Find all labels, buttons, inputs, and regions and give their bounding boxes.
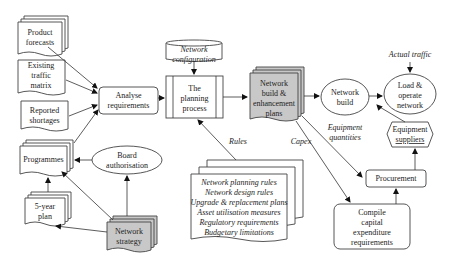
equipment-suppliers-node: Equipment suppliers: [387, 122, 433, 147]
network-planning-diagram: Product forecasts Existing traffic matri…: [0, 0, 452, 261]
board-authorisation-label-2: authorisation: [106, 161, 148, 170]
procurement-label: Procurement: [376, 174, 418, 183]
edge-label-rules: Rules: [228, 137, 247, 146]
network-strategy-label-1: Network: [115, 227, 143, 236]
product-forecasts-label-1: Product: [28, 28, 54, 37]
rules-item-3: Upgrade & replacement plans: [190, 198, 287, 207]
edge-label-actual-traffic: Actual traffic: [388, 50, 432, 59]
five-year-plan-label-1: 5-year: [35, 202, 56, 211]
capex-label-1: Compile: [358, 208, 386, 217]
edge-programmes-to-analyse: [74, 110, 98, 143]
network-plans-label-4: plans: [266, 109, 283, 118]
network-plans-label-1: Network: [260, 79, 288, 88]
analyse-requirements-node: Analyse requirements: [99, 87, 158, 114]
rules-item-1: Network planning rules: [200, 178, 277, 187]
planning-process-label-1: The: [188, 84, 201, 93]
planning-process-label-2: planning: [181, 94, 209, 103]
five-year-plan-node: 5-year plan: [25, 192, 71, 226]
network-plans-label-2: build &: [262, 89, 287, 98]
load-operate-label-2: operate: [398, 91, 422, 100]
network-build-node: Network build: [321, 79, 369, 115]
capex-label-4: requirements: [351, 238, 393, 247]
edge-label-equipment-quantities-1: Equipment: [327, 123, 363, 132]
board-authorisation-node: Board authorisation: [92, 146, 162, 174]
network-plans-label-3: enhancement: [253, 99, 296, 108]
capex-node: Compile capital expenditure requirements: [334, 204, 410, 249]
planning-process-label-3: process: [183, 104, 207, 113]
analyse-requirements-label-1: Analyse: [115, 91, 142, 100]
load-operate-node: Load & operate network: [384, 74, 436, 114]
reported-shortages-node: Reported shortages: [21, 101, 68, 131]
analyse-requirements-label-2: requirements: [108, 101, 150, 110]
rules-item-4: Asset utilisation measures: [196, 208, 280, 217]
network-configuration-node: Network configuration: [166, 40, 222, 64]
board-authorisation-label-1: Board: [117, 151, 137, 160]
network-build-label-2: build: [337, 98, 353, 107]
load-operate-label-3: network: [397, 101, 423, 110]
equipment-suppliers-label-1: Equipment: [392, 125, 428, 134]
capex-label-2: capital: [361, 218, 383, 227]
edge-label-equipment-quantities-2: quantities: [329, 133, 361, 142]
existing-traffic-label-2: traffic: [31, 71, 51, 80]
programmes-label: Programmes: [23, 155, 63, 164]
equipment-suppliers-label-2: suppliers: [396, 135, 425, 144]
rules-item-2: Network design rules: [204, 188, 273, 197]
edge-label-capex: Capex: [291, 137, 312, 146]
network-strategy-label-2: strategy: [116, 237, 141, 246]
network-build-label-1: Network: [331, 88, 359, 97]
rules-item-6: Budgetary limitations: [204, 228, 274, 237]
network-plans-node: Network build & enhancement plans: [250, 67, 304, 121]
product-forecasts-node: Product forecasts: [18, 16, 68, 56]
planning-process-node: The planning process: [166, 76, 223, 118]
rules-item-5: Regulatory requirements: [198, 218, 278, 227]
reported-shortages-label-2: shortages: [29, 116, 59, 125]
existing-traffic-label-3: matrix: [31, 81, 52, 90]
five-year-plan-label-2: plan: [38, 212, 52, 221]
edge-shortages-to-analyse: [69, 105, 97, 116]
procurement-node: Procurement: [366, 170, 426, 187]
network-strategy-node: Network strategy: [107, 216, 157, 252]
edge-strategy-to-plan: [56, 226, 107, 232]
load-operate-label-1: Load &: [398, 81, 423, 90]
capex-label-3: expenditure: [353, 228, 391, 237]
existing-traffic-label-1: Existing: [28, 61, 55, 70]
programmes-node: Programmes: [20, 140, 73, 176]
edge-traffic-to-analyse: [66, 80, 97, 93]
reported-shortages-label-1: Reported: [30, 106, 59, 115]
existing-traffic-matrix-node: Existing traffic matrix: [18, 60, 65, 95]
rules-document-node: Network planning rules Network design ru…: [190, 160, 303, 242]
network-configuration-label-1: Network: [179, 45, 208, 54]
product-forecasts-label-2: forecasts: [26, 38, 54, 47]
